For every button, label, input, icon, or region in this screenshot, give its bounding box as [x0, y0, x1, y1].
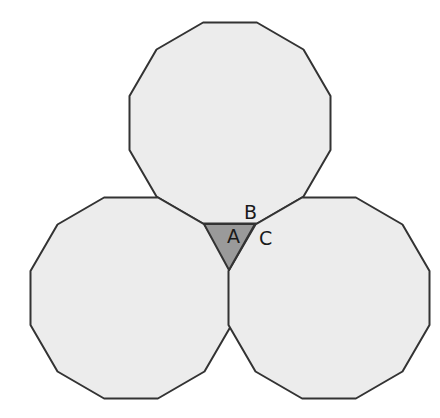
dodecagon-bottom-left: [31, 198, 232, 399]
label-c: C: [259, 227, 272, 249]
tessellation-diagram: A B C: [0, 0, 440, 418]
label-b: B: [244, 201, 257, 223]
label-a: A: [227, 225, 240, 247]
dodecagon-top: [130, 23, 331, 224]
